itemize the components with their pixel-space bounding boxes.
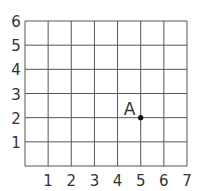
y-tick-label: 5 xyxy=(11,37,21,55)
point-a-label: A xyxy=(124,99,136,119)
point-a-marker xyxy=(138,115,143,120)
grid-lines xyxy=(25,21,187,166)
y-tick-label: 4 xyxy=(11,61,21,79)
x-tick-label: 7 xyxy=(182,172,192,190)
x-axis-labels: 1234567 xyxy=(43,172,191,190)
x-tick-label: 5 xyxy=(136,172,146,190)
y-tick-label: 3 xyxy=(11,86,21,104)
x-tick-label: 6 xyxy=(159,172,169,190)
x-tick-label: 2 xyxy=(67,172,77,190)
x-tick-label: 4 xyxy=(113,172,123,190)
y-tick-label: 6 xyxy=(11,13,21,31)
coordinate-grid: 1234567 123456 A xyxy=(0,0,201,191)
y-tick-label: 2 xyxy=(11,110,21,128)
y-tick-label: 1 xyxy=(11,134,21,152)
x-tick-label: 1 xyxy=(43,172,53,190)
x-tick-label: 3 xyxy=(90,172,100,190)
y-axis-labels: 123456 xyxy=(11,13,21,152)
